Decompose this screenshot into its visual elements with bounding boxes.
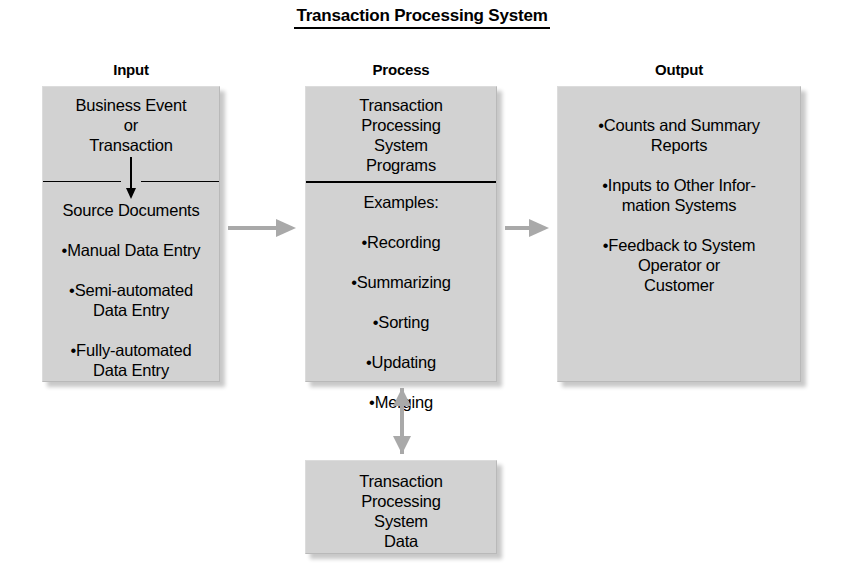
right-arrow-icon-input-to-process [228,219,296,237]
input-box-bullet-list: •Manual Data Entry •Semi-automated Data … [43,220,219,400]
list-item: •Manual Data Entry [43,240,219,260]
list-item: •Semi-automated Data Entry [43,280,219,320]
input-box-heading: Source Documents [43,200,219,220]
list-item: •Feedback to System Operator or Customer [558,235,800,295]
process-box: Transaction Processing System Programs E… [305,86,497,382]
data-box-text: Transaction Processing System Data [306,471,496,551]
input-box-divider-left [43,181,121,182]
input-box-divider-right [141,181,219,182]
input-box-bottom: Source Documents •Manual Data Entry •Sem… [43,200,219,400]
output-box: •Counts and Summary Reports •Inputs to O… [557,86,801,382]
process-box-divider [306,181,496,183]
list-item: •Fully-automated Data Entry [43,340,219,380]
column-header-output: Output [557,61,801,78]
page-title-text: Transaction Processing System [294,6,549,29]
column-header-process: Process [305,61,497,78]
arrow-head-up [393,388,411,406]
arrow-head [276,219,296,237]
down-arrow-icon-head [126,188,136,199]
page-title: Transaction Processing System [0,6,844,29]
output-box-body: •Counts and Summary Reports •Inputs to O… [558,95,800,315]
output-box-bullet-list: •Counts and Summary Reports •Inputs to O… [558,95,800,315]
list-item: •Summarizing [306,272,496,292]
column-header-input: Input [42,61,220,78]
arrow-shaft [505,226,529,230]
data-box: Transaction Processing System Data [305,460,497,554]
list-item: •Sorting [306,312,496,332]
process-box-heading: Examples: [306,192,496,212]
arrow-shaft [228,226,276,230]
right-arrow-icon-process-to-output [505,219,549,237]
arrow-head-down [393,436,411,454]
list-item: •Counts and Summary Reports [558,115,800,155]
list-item: •Updating [306,352,496,372]
list-item: •Recording [306,232,496,252]
arrow-head [529,219,549,237]
diagram-canvas: Transaction Processing System Input Proc… [0,0,844,573]
double-arrow-icon-process-to-data [393,388,411,454]
process-box-top-text: Transaction Processing System Programs [306,95,496,175]
down-arrow-icon-shaft [130,157,132,191]
input-box: Business Event or Transaction Source Doc… [42,86,220,382]
list-item: •Inputs to Other Infor- mation Systems [558,175,800,215]
input-box-top-text: Business Event or Transaction [43,95,219,155]
